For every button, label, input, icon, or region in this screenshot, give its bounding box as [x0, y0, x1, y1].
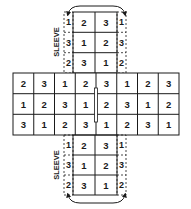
- cell: 3: [145, 119, 150, 130]
- cell: 2: [21, 78, 26, 89]
- cell: 1: [124, 78, 130, 89]
- bottom-sleeve-label: SLEEVE: [52, 150, 61, 180]
- cell: 2: [41, 99, 46, 110]
- cell: 3: [103, 17, 108, 28]
- cell: 3: [21, 119, 26, 130]
- sleeve-cell: 2: [119, 58, 124, 68]
- cell: 2: [81, 17, 86, 28]
- sleeve-puzzle-diagram: SLEEVE 2 3 1 2 3 1 1 3 2 1 3 2 2 3 1 2 3…: [0, 0, 191, 209]
- cell: 2: [145, 78, 150, 89]
- cell: 3: [81, 180, 86, 191]
- cell: 1: [41, 119, 47, 130]
- cell: 3: [81, 57, 86, 68]
- sleeve-cell: 2: [66, 180, 71, 190]
- cell: 1: [62, 78, 68, 89]
- cell: 2: [62, 119, 67, 130]
- sleeve-cell: 3: [119, 38, 124, 48]
- cell: 1: [166, 119, 172, 130]
- cell: 2: [103, 37, 108, 48]
- cell: 1: [21, 99, 27, 110]
- center-slit: [95, 88, 98, 122]
- cell: 2: [83, 78, 88, 89]
- cell: 3: [103, 140, 108, 151]
- cell: 3: [62, 99, 67, 110]
- sleeve-cell: 1: [119, 17, 124, 27]
- sleeve-cell: 1: [66, 140, 71, 150]
- cell: 1: [81, 160, 87, 171]
- cell: 2: [124, 119, 129, 130]
- cell: 3: [166, 78, 171, 89]
- bottom-swap-arrow-icon: [68, 195, 125, 203]
- cell: 2: [103, 160, 108, 171]
- cell: 3: [104, 78, 109, 89]
- sleeve-cell: 1: [66, 17, 71, 27]
- cell: 2: [166, 99, 171, 110]
- top-sleeve-label: SLEEVE: [52, 27, 61, 57]
- cell: 1: [103, 180, 109, 191]
- cell: 2: [81, 140, 86, 151]
- cell: 2: [104, 99, 109, 110]
- top-swap-arrow-icon: [68, 6, 125, 14]
- sleeve-cell: 1: [119, 140, 124, 150]
- cell: 1: [145, 99, 151, 110]
- sleeve-cell: 3: [119, 160, 124, 170]
- sleeve-cell: 3: [66, 160, 71, 170]
- cell: 1: [103, 57, 109, 68]
- top-block: SLEEVE 2 3 1 2 3 1 1 3 2 1 3 2: [52, 12, 127, 73]
- main-grid: 2 3 1 2 3 1 2 3 1 2 3 1 2 3 1 2 3 1 2 3 …: [13, 73, 179, 135]
- sleeve-cell: 2: [119, 180, 124, 190]
- cell: 1: [81, 37, 87, 48]
- cell: 1: [83, 99, 89, 110]
- sleeve-cell: 2: [66, 58, 71, 68]
- cell: 3: [41, 78, 46, 89]
- cell: 3: [83, 119, 88, 130]
- sleeve-cell: 3: [66, 38, 71, 48]
- bottom-block: SLEEVE 2 3 1 2 3 1 1 3 2 1 3 2: [52, 135, 127, 195]
- cell: 1: [104, 119, 110, 130]
- cell: 3: [124, 99, 129, 110]
